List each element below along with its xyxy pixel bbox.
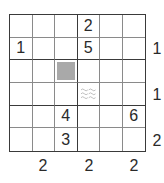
grid-cell-r3-c6[interactable] [123,60,146,83]
grid-cell-r3-c4[interactable] [78,60,101,83]
cell-value: 4 [61,108,70,124]
grid-cell-r6-c5[interactable] [100,128,123,151]
right-clue-row-4: 1 [150,87,164,103]
grid-cell-r4-c2[interactable] [33,83,56,106]
grid-cell-r2-c2[interactable] [33,38,56,61]
bottom-clue-col-2: 2 [32,158,54,174]
cell-value: 5 [84,40,93,56]
grid-cell-r5-c2[interactable] [33,106,56,129]
grid-cell-r6-c6[interactable] [123,128,146,151]
grid-cell-r5-c5[interactable] [100,106,123,129]
grid-cell-r6-c2[interactable] [33,128,56,151]
water-wave-icon [81,87,97,101]
grid-cell-r1-c3[interactable] [55,15,78,38]
grid-cell-r4-c6[interactable] [123,83,146,106]
grid-cell-r1-c1[interactable] [10,15,33,38]
grid-cell-r5-c3[interactable]: 4 [55,106,78,129]
bottom-clue-col-6: 2 [123,158,145,174]
grid-cell-r2-c5[interactable] [100,38,123,61]
grid-cell-r1-c6[interactable] [123,15,146,38]
grid-cell-r4-c5[interactable] [100,83,123,106]
grid-cell-r2-c1[interactable]: 1 [10,38,33,61]
grid-cell-r4-c1[interactable] [10,83,33,106]
puzzle-board: 215463 1 1 2 2 2 2 [0,0,164,183]
puzzle-grid: 215463 [9,14,146,152]
grid-cell-r6-c1[interactable] [10,128,33,151]
cell-value: 2 [84,18,93,34]
grid-cell-r1-c5[interactable] [100,15,123,38]
cell-value: 6 [129,108,138,124]
grid-cell-r3-c2[interactable] [33,60,56,83]
grid-cell-r3-c3[interactable] [55,60,78,83]
grid-cell-r5-c6[interactable]: 6 [123,106,146,129]
grid-cell-r2-c6[interactable] [123,38,146,61]
grid-cell-r2-c4[interactable]: 5 [78,38,101,61]
right-clue-row-2: 1 [150,41,164,57]
grid-cell-r3-c5[interactable] [100,60,123,83]
cell-value: 3 [61,132,70,148]
grid-cell-r1-c4[interactable]: 2 [78,15,101,38]
right-clue-row-6: 2 [150,133,164,149]
bottom-clue-col-4: 2 [78,158,100,174]
cell-value: 1 [16,40,25,56]
grid-cell-r4-c4[interactable] [78,83,101,106]
grid-cell-r3-c1[interactable] [10,60,33,83]
shaded-block [57,62,75,80]
grid-cell-r4-c3[interactable] [55,83,78,106]
grid-cell-r2-c3[interactable] [55,38,78,61]
grid-cell-r5-c1[interactable] [10,106,33,129]
grid-cell-r5-c4[interactable] [78,106,101,129]
grid-cell-r1-c2[interactable] [33,15,56,38]
grid-cell-r6-c3[interactable]: 3 [55,128,78,151]
grid-cell-r6-c4[interactable] [78,128,101,151]
